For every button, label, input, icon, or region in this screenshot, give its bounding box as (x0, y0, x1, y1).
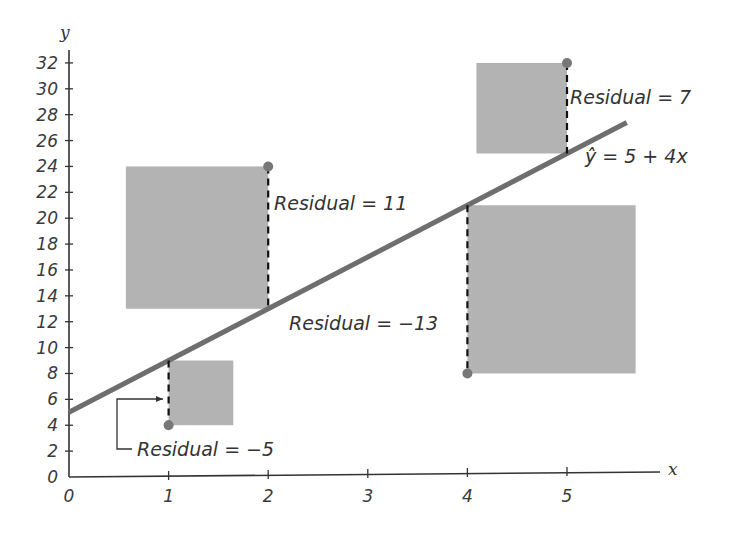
y-tick-label: 16 (36, 260, 58, 280)
y-tick-label: 8 (47, 363, 58, 383)
x-axis (69, 472, 660, 477)
data-point (462, 368, 472, 378)
residual-squares (126, 63, 636, 425)
x-tick-label: 5 (562, 486, 573, 506)
y-tick-label: 22 (36, 182, 58, 202)
equation-label: ŷ = 5 + 4x (584, 145, 688, 167)
y-tick-label: 26 (36, 131, 58, 151)
data-point (263, 161, 273, 171)
residual-square (476, 63, 567, 154)
residual-label-1: Residual = −5 (137, 438, 274, 460)
y-tick-label: 0 (47, 467, 58, 487)
y-tick-label: 28 (36, 105, 58, 125)
x-tick-label: 2 (263, 486, 274, 506)
x-tick-label: 0 (64, 486, 75, 506)
y-tick-label: 10 (36, 338, 58, 358)
y-tick-label: 18 (36, 234, 58, 254)
residual-square (126, 166, 268, 308)
residual-squares-chart: 02468101214161820222426283032012345 y x … (0, 0, 747, 535)
residual-label-2: Residual = 11 (274, 192, 407, 214)
y-tick-label: 2 (47, 441, 58, 461)
y-tick-label: 14 (36, 286, 58, 306)
y-axis-label: y (59, 22, 70, 42)
y-tick-label: 24 (36, 156, 58, 176)
arrow-head-icon (156, 396, 163, 402)
y-tick-label: 6 (47, 389, 58, 409)
y-tick-label: 30 (36, 79, 58, 99)
residual-square (169, 361, 234, 426)
data-point (164, 420, 174, 430)
residual-square (467, 205, 635, 373)
y-tick-label: 4 (47, 415, 58, 435)
y-tick-label: 32 (36, 53, 58, 73)
x-tick-label: 3 (362, 486, 373, 506)
data-point (562, 58, 572, 68)
residual-label-4: Residual = 7 (570, 86, 691, 108)
x-tick-label: 4 (462, 486, 473, 506)
y-tick-label: 20 (36, 208, 58, 228)
x-axis-label: x (668, 459, 678, 479)
residual-label-3: Residual = −13 (289, 312, 438, 334)
x-tick-label: 1 (163, 486, 174, 506)
y-tick-label: 12 (36, 312, 58, 332)
